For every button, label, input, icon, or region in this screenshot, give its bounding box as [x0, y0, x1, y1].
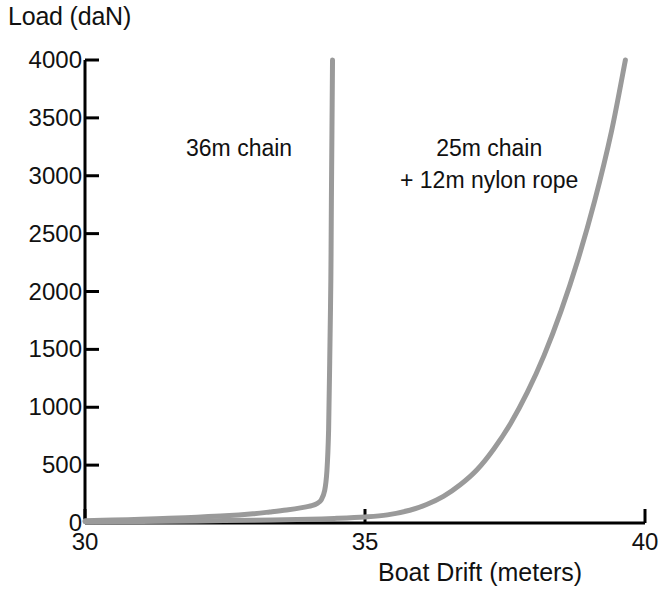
x-axis-title: Boat Drift (meters) [378, 558, 582, 587]
series-annotation-chain: 36m chain [186, 133, 292, 165]
axis-lines [85, 60, 645, 523]
y-axis-ticks [85, 60, 99, 465]
chart-container: Load (daN) 05001000150020002500300035004… [0, 0, 670, 602]
plot-area [0, 0, 670, 602]
data-series-lines [85, 60, 625, 522]
series-line [85, 60, 333, 521]
annotation-text-1: 36m chain [186, 135, 292, 161]
annotation-text-2b: + 12m nylon rope [400, 165, 578, 197]
annotation-text-2a: 25m chain [400, 133, 578, 165]
series-line [85, 60, 625, 522]
series-annotation-chain-rope: 25m chain + 12m nylon rope [400, 133, 578, 196]
